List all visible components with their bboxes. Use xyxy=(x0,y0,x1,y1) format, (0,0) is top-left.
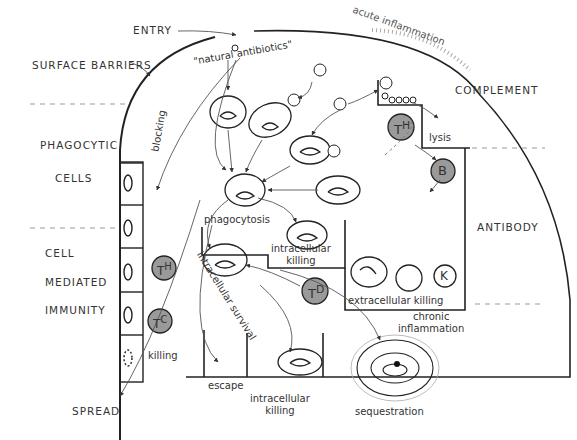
th-complement-letter: TH xyxy=(394,120,410,136)
escape-label: escape xyxy=(208,380,244,392)
cells-label: CELLS xyxy=(55,172,92,184)
phagocytosis-label: phagocytosis xyxy=(204,214,270,226)
immunity-label: IMMUNITY xyxy=(45,304,106,316)
intracellular-killing-label: intracellularkilling xyxy=(271,243,331,267)
complement-label: COMPLEMENT xyxy=(455,84,538,96)
td-letter: TD xyxy=(308,284,324,300)
extracellular-killing-label: extracellular killing xyxy=(348,295,443,307)
antibody-label: ANTIBODY xyxy=(477,221,539,233)
mediated-label: MEDIATED xyxy=(45,276,107,288)
phagocytic-label: PHAGOCYTIC xyxy=(40,139,118,151)
b-cell-letter: B xyxy=(438,165,447,177)
cell-label: CELL xyxy=(45,247,75,259)
intracellular-killing-2-label: intracellularkilling xyxy=(250,393,310,417)
lysis-label: lysis xyxy=(429,132,451,144)
th-left-letter: TH xyxy=(157,261,172,277)
tc-letter: TC xyxy=(153,314,167,330)
chronic-inflammation-label: chronicinflammation xyxy=(398,311,464,335)
spread-label: SPREAD xyxy=(72,405,120,417)
tc-killing-label: killing xyxy=(148,350,178,362)
entry-label: ENTRY xyxy=(133,24,172,36)
host-boundary xyxy=(120,37,215,440)
k-cell-letter: K xyxy=(440,270,448,282)
sequestration-label: sequestration xyxy=(355,406,424,418)
surface-barriers-label: SURFACE BARRIERS xyxy=(32,59,152,71)
